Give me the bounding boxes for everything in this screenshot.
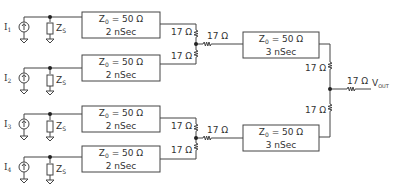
- source-label-1: I1: [4, 23, 11, 33]
- tline-label-4: Z0 = 50 Ω 2 nSec: [82, 148, 160, 172]
- resistor-label-5: 17 Ω: [171, 146, 192, 155]
- source-label-3: I3: [4, 120, 11, 130]
- zs-label-1: ZS: [56, 24, 66, 34]
- resistor-label-8: 17 Ω: [305, 106, 326, 115]
- source-branch-1: [20, 17, 82, 43]
- source-label-4: I4: [4, 163, 11, 173]
- zs-label-3: ZS: [56, 122, 66, 132]
- tline-label-3: Z0 = 50 Ω 2 nSec: [82, 108, 160, 132]
- tline-label-2: Z0 = 50 Ω 2 nSec: [82, 57, 160, 81]
- resistor-label-4: 17 Ω: [171, 122, 192, 131]
- resistor-label-2: 17 Ω: [171, 52, 192, 61]
- source-branch-3: [20, 114, 82, 141]
- zs-label-4: ZS: [56, 165, 66, 175]
- source-branch-2: [20, 68, 82, 95]
- resistor-label-9: 17 Ω: [347, 77, 368, 86]
- resistor-label-7: 17 Ω: [305, 64, 326, 73]
- tline-label-1: Z0 = 50 Ω 2 nSec: [82, 14, 160, 38]
- resistor-label-6: 17 Ω: [207, 126, 228, 135]
- resistor-label-1: 17 Ω: [171, 28, 192, 37]
- output-label: VOUT: [372, 79, 389, 89]
- source-branch-4: [20, 157, 82, 184]
- source-label-2: I2: [4, 74, 11, 84]
- zs-label-2: ZS: [56, 76, 66, 86]
- tline-label-6: Z0 = 50 Ω 3 nSec: [242, 127, 320, 151]
- resistor-label-3: 17 Ω: [207, 32, 228, 41]
- tline-label-5: Z0 = 50 Ω 3 nSec: [242, 34, 320, 58]
